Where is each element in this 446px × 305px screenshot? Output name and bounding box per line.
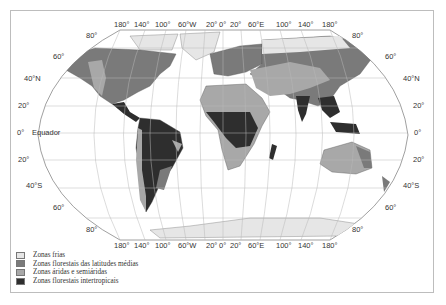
svg-text:20°: 20°: [230, 20, 241, 29]
svg-text:100°: 100°: [155, 241, 171, 250]
svg-text:180°: 180°: [322, 20, 338, 29]
svg-text:20°: 20°: [413, 155, 424, 164]
legend-label: Zonas florestais intertropicais: [33, 277, 118, 285]
legend-item-cold: Zonas frias: [16, 251, 138, 260]
svg-text:60°W: 60°W: [178, 20, 197, 29]
svg-text:100°: 100°: [276, 20, 292, 29]
svg-text:40°S: 40°S: [403, 181, 419, 190]
tropical-forest-swatch: [16, 278, 25, 285]
svg-text:60°: 60°: [385, 203, 396, 212]
equator-label: Equador: [32, 128, 61, 137]
svg-text:20°: 20°: [206, 241, 217, 250]
svg-text:0°: 0°: [414, 128, 421, 137]
svg-text:180°: 180°: [322, 241, 338, 250]
svg-text:20°: 20°: [18, 155, 29, 164]
svg-text:20°: 20°: [230, 241, 241, 250]
svg-text:80°: 80°: [352, 225, 363, 234]
svg-text:60°: 60°: [53, 52, 64, 61]
legend-item-temperate-forest: Zonas florestais das latitudes médias: [16, 260, 138, 269]
svg-text:20°: 20°: [413, 101, 424, 110]
svg-text:140°: 140°: [298, 241, 314, 250]
svg-text:60°E: 60°E: [248, 241, 264, 250]
map-legend: Zonas frias Zonas florestais das latitud…: [16, 251, 138, 285]
svg-text:180°: 180°: [114, 241, 130, 250]
svg-text:180°: 180°: [114, 20, 130, 29]
svg-text:40°S: 40°S: [26, 181, 42, 190]
svg-text:0°: 0°: [219, 20, 226, 29]
legend-label: Zonas frias: [33, 251, 65, 259]
svg-text:80°: 80°: [86, 225, 97, 234]
svg-text:140°: 140°: [134, 20, 150, 29]
bottom-longitude-labels: 180° 140° 100° 60°W 20° 0° 20° 60°E 100°…: [114, 241, 338, 250]
svg-text:0°: 0°: [219, 241, 226, 250]
legend-label: Zonas florestais das latitudes médias: [33, 260, 138, 268]
svg-text:60°: 60°: [385, 52, 396, 61]
legend-label: Zonas áridas e semiáridas: [33, 268, 107, 276]
svg-text:60°W: 60°W: [178, 241, 197, 250]
top-longitude-labels: 180° 140° 100° 60°W 20° 0° 20° 60°E 100°…: [114, 20, 338, 29]
svg-text:100°: 100°: [155, 20, 171, 29]
svg-text:140°: 140°: [134, 241, 150, 250]
temperate-forest-swatch: [16, 260, 25, 267]
svg-text:80°: 80°: [86, 31, 97, 40]
svg-text:20°: 20°: [206, 20, 217, 29]
svg-text:60°: 60°: [53, 203, 64, 212]
svg-text:80°: 80°: [352, 31, 363, 40]
svg-text:140°: 140°: [298, 20, 314, 29]
svg-text:100°: 100°: [276, 241, 292, 250]
cold-zone-swatch: [16, 252, 25, 259]
legend-item-tropical-forest: Zonas florestais intertropicais: [16, 277, 138, 286]
svg-text:40°N: 40°N: [403, 74, 420, 83]
legend-item-arid: Zonas áridas e semiáridas: [16, 268, 138, 277]
svg-text:40°N: 40°N: [24, 74, 41, 83]
svg-text:60°E: 60°E: [248, 20, 264, 29]
arid-zone-swatch: [16, 269, 25, 276]
svg-text:20°: 20°: [18, 101, 29, 110]
svg-text:0°: 0°: [17, 128, 24, 137]
